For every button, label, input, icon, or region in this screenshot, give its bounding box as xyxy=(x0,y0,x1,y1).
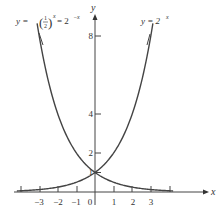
svg-text:): ) xyxy=(48,15,52,30)
svg-text:x: x xyxy=(165,14,169,20)
svg-text:2: 2 xyxy=(131,197,136,207)
x-axis-arrow-icon xyxy=(203,190,209,195)
svg-text:4: 4 xyxy=(89,109,94,119)
y-axis-label: y xyxy=(90,2,96,13)
label-half-to-x: y = ( 1 2 ) x = 2 −x xyxy=(15,13,80,30)
svg-text:1: 1 xyxy=(112,197,117,207)
label-2-to-x: y = 2 x xyxy=(140,14,169,26)
x-axis-label: x xyxy=(210,186,216,197)
svg-text:y = 2: y = 2 xyxy=(140,16,161,26)
svg-text:−1: −1 xyxy=(71,197,81,207)
y-tick-labels: 1 2 4 8 xyxy=(89,31,94,177)
svg-text:−2: −2 xyxy=(53,197,63,207)
svg-text:2: 2 xyxy=(44,23,47,29)
svg-text:2: 2 xyxy=(89,148,94,158)
svg-text:−x: −x xyxy=(73,14,80,20)
curve-2-to-x xyxy=(17,23,153,191)
svg-text:x: x xyxy=(52,13,56,19)
svg-text:−3: −3 xyxy=(34,197,44,207)
svg-text:(: ( xyxy=(39,15,43,30)
svg-text:1: 1 xyxy=(44,15,47,21)
y-ticks xyxy=(95,36,101,173)
svg-text:3: 3 xyxy=(149,197,154,207)
svg-text:8: 8 xyxy=(89,31,94,41)
svg-text:0: 0 xyxy=(88,197,93,207)
x-tick-labels: −3 −2 −1 0 1 2 3 xyxy=(34,197,154,207)
svg-text:y =: y = xyxy=(15,16,28,26)
curve-2-to-neg-x xyxy=(37,23,173,191)
exponential-functions-chart: x y −3 −2 −1 0 1 2 3 1 2 4 8 y = xyxy=(0,0,217,216)
svg-text:= 2: = 2 xyxy=(57,16,69,26)
y-axis-arrow-icon xyxy=(93,14,98,20)
